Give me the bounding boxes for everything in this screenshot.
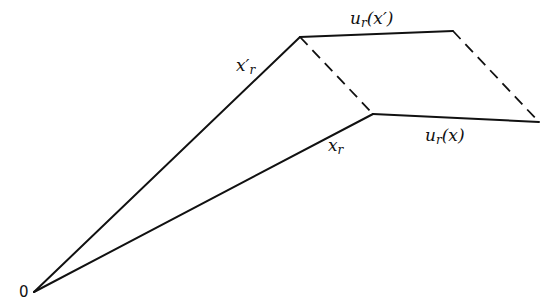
label-u-r-x: ur(x) xyxy=(425,127,465,146)
dashed-connector-left xyxy=(300,37,373,114)
diagram-svg xyxy=(0,0,552,307)
label-x-prime-r-sub: r xyxy=(249,63,255,77)
label-u-r-x-prime-arg: (x′) xyxy=(367,8,394,28)
label-x-r: xr xyxy=(328,137,343,156)
displacement-u-r-x-prime xyxy=(300,31,453,37)
label-x-prime-r: x′r xyxy=(236,57,255,76)
label-x-r-sub: r xyxy=(338,143,344,157)
label-u-r-x-prime-base: u xyxy=(350,8,361,28)
label-u-r-x-prime: ur(x′) xyxy=(350,10,393,29)
label-x-prime-r-base: x′ xyxy=(236,55,249,75)
dashed-connector-right xyxy=(453,31,539,122)
origin-label: 0 xyxy=(19,285,29,300)
vector-x-prime-r xyxy=(34,37,300,292)
diagram-canvas: 0 x′r ur(x′) xr ur(x) xyxy=(0,0,552,307)
vector-x-r xyxy=(34,114,373,292)
label-x-r-base: x xyxy=(328,135,338,155)
displacement-u-r-x xyxy=(373,114,539,122)
label-u-r-x-arg: (x) xyxy=(442,125,465,145)
label-u-r-x-base: u xyxy=(425,125,436,145)
